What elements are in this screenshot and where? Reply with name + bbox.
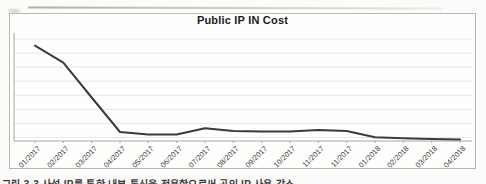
x-tick-label: 02/2018	[385, 144, 411, 170]
x-tick-label: 01/2018	[357, 144, 383, 170]
x-tick-label: 07/2017	[187, 144, 213, 170]
screenshot-root: Public IP IN Cost 01/201702/201703/20170…	[0, 0, 486, 184]
series-line	[35, 46, 460, 140]
line-chart-plot: 01/201702/201703/201704/201705/201706/20…	[0, 0, 486, 184]
x-tick-label: 09/2017	[244, 144, 270, 170]
x-tick-label: 03/2018	[414, 144, 440, 170]
x-tick-label: 06/2017	[159, 144, 185, 170]
x-tick-label: 10/2017	[272, 144, 298, 170]
x-tick-label: 01/2017	[17, 144, 43, 170]
x-tick-label: 04/2017	[102, 144, 128, 170]
x-tick-label: 11/2017	[301, 144, 326, 169]
x-tick-label: 11/2017	[329, 144, 354, 169]
x-tick-label: 05/2017	[130, 144, 156, 170]
x-tick-label: 03/2017	[74, 144, 100, 170]
x-tick-label: 04/2018	[442, 144, 468, 170]
figure-caption: 그림 3-3 사설 IP를 통한 내부 통신을 적용함으로써 공인 IP 사용 …	[2, 176, 482, 184]
x-tick-label: 08/2017	[215, 144, 241, 170]
x-tick-label: 02/2017	[45, 144, 71, 170]
